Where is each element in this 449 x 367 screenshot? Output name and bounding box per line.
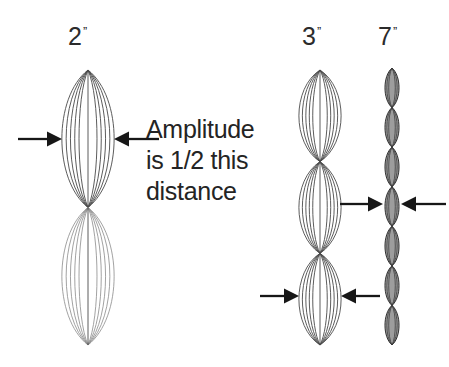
harmonics-diagram: 2ˮ 3ˮ 7ˮ Amplitude is 1/2 this distance	[0, 0, 449, 367]
annotation-line-2: is 1/2 this	[146, 145, 296, 176]
harmonic-2-spindle	[62, 70, 114, 345]
annotation-line-1: Amplitude	[146, 114, 296, 145]
amplitude-annotation: Amplitude is 1/2 this distance	[146, 114, 296, 207]
annotation-line-3: distance	[146, 176, 296, 207]
amplitude-arrows-harmonic-2-right-head	[114, 132, 129, 147]
harmonic-7-spindle	[385, 68, 399, 345]
harmonic-3-spindle	[299, 70, 341, 345]
amplitude-arrows-harmonic-7-right-head	[401, 197, 416, 212]
amplitude-arrows-harmonic-3-right-head	[341, 289, 356, 304]
amplitude-arrows-harmonic-2-left-head	[47, 132, 62, 147]
amplitude-arrows-harmonic-7-left-head	[368, 197, 383, 212]
amplitude-arrows-harmonic-3-left-head	[284, 289, 299, 304]
